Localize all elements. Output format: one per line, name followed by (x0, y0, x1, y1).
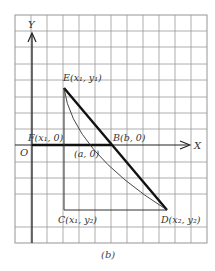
x-axis-label: X (193, 140, 202, 151)
origin-label: O (20, 147, 28, 158)
diagram-figure: Y X O E(x₁, y₁) F(x₁, 0) (a, 0) B(b, 0) … (0, 0, 215, 271)
point-c-label: C(x₁, y₂) (58, 214, 97, 225)
grid (15, 15, 207, 243)
point-b-label: B(b, 0) (112, 132, 146, 143)
point-a-label: (a, 0) (74, 148, 99, 159)
point-f-label: F(x₁, 0) (27, 132, 64, 143)
figure-caption: (b) (101, 249, 115, 260)
point-d-label: D(x₂, y₂) (160, 214, 201, 225)
y-axis-label: Y (28, 19, 36, 30)
point-e-label: E(x₁, y₁) (62, 72, 102, 83)
